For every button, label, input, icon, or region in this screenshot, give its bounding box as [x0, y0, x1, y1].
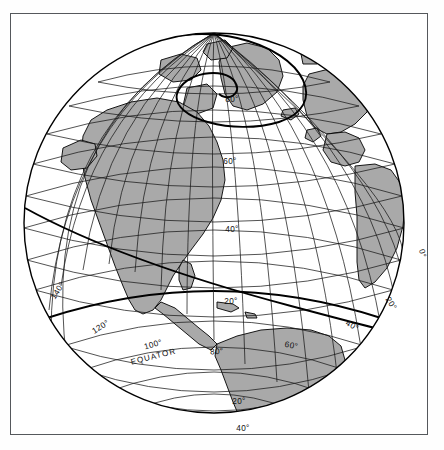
globe-svg: 80° 60° 40° 20° 20° 40° 140° 120° 100° E… — [11, 14, 429, 436]
figure-frame: 80° 60° 40° 20° 20° 40° 140° 120° 100° E… — [10, 13, 428, 435]
label-lat-40-south: 40° — [236, 424, 250, 433]
figure-page: 80° 60° 40° 20° 20° 40° 140° 120° 100° E… — [0, 0, 444, 450]
land-siberia-edge — [367, 62, 405, 98]
label-lon-20: 20° — [384, 295, 399, 311]
label-lat-20-north: 20° — [224, 297, 238, 306]
land-south-america — [215, 328, 345, 428]
label-lat-40: 40° — [225, 225, 239, 234]
land-novaya-zemlya — [341, 46, 367, 62]
land-svalbard — [301, 50, 323, 64]
label-lat-60: 60° — [223, 157, 237, 166]
label-lat-20-south: 20° — [232, 397, 246, 406]
label-lon-0: 0° — [417, 248, 428, 258]
globe-illustration: 80° 60° 40° 20° 20° 40° 140° 120° 100° E… — [11, 14, 429, 436]
label-lat-80: 80° — [225, 95, 239, 104]
label-lon-80: 80° — [210, 347, 224, 357]
